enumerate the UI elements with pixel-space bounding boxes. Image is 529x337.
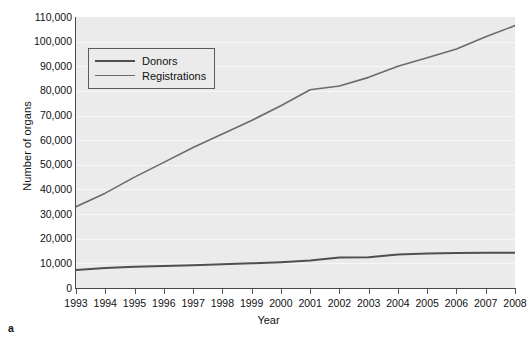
y-tick-label: 80,000 <box>18 85 72 95</box>
x-tick-mark <box>398 289 399 294</box>
legend-line-swatch <box>95 75 135 76</box>
y-tick-label: 10,000 <box>18 258 72 268</box>
x-tick-mark <box>427 289 428 294</box>
y-tick-label: 50,000 <box>18 159 72 169</box>
y-tick-label: 110,000 <box>18 12 72 22</box>
legend-line-swatch <box>95 60 135 62</box>
y-axis-tick-labels: 010,00020,00030,00040,00050,00060,00070,… <box>14 0 72 337</box>
x-tick-mark <box>164 289 165 294</box>
y-tick-label: 70,000 <box>18 110 72 120</box>
x-tick-mark <box>515 289 516 294</box>
x-axis-line <box>75 288 516 289</box>
x-axis-title-text: Year <box>257 314 279 326</box>
x-tick-mark <box>105 289 106 294</box>
x-tick-mark <box>135 289 136 294</box>
legend-item-registrations: Registrations <box>95 68 206 83</box>
x-tick-label: 2008 <box>495 297 529 309</box>
line-donors <box>76 253 515 270</box>
x-tick-mark <box>486 289 487 294</box>
x-tick-mark <box>76 289 77 294</box>
y-tick-label: 20,000 <box>18 233 72 243</box>
x-tick-mark <box>222 289 223 294</box>
y-tick-label: 30,000 <box>18 209 72 219</box>
x-tick-mark <box>193 289 194 294</box>
figure-panel-a: Number of organs 010,00020,00030,00040,0… <box>0 0 529 337</box>
x-tick-mark <box>252 289 253 294</box>
y-tick-label: 90,000 <box>18 61 72 71</box>
x-tick-mark <box>369 289 370 294</box>
y-tick-label: 0 <box>18 283 72 293</box>
x-axis-title: Year <box>0 314 529 326</box>
legend-label: Registrations <box>142 70 206 82</box>
x-tick-mark <box>310 289 311 294</box>
x-tick-mark <box>339 289 340 294</box>
legend-label: Donors <box>142 55 177 67</box>
x-tick-mark <box>281 289 282 294</box>
panel-caption: a <box>8 322 14 334</box>
y-tick-label: 100,000 <box>18 36 72 46</box>
chart-legend: DonorsRegistrations <box>88 48 215 89</box>
legend-item-donors: Donors <box>95 53 206 68</box>
y-tick-label: 60,000 <box>18 135 72 145</box>
y-tick-label: 40,000 <box>18 184 72 194</box>
x-tick-mark <box>456 289 457 294</box>
